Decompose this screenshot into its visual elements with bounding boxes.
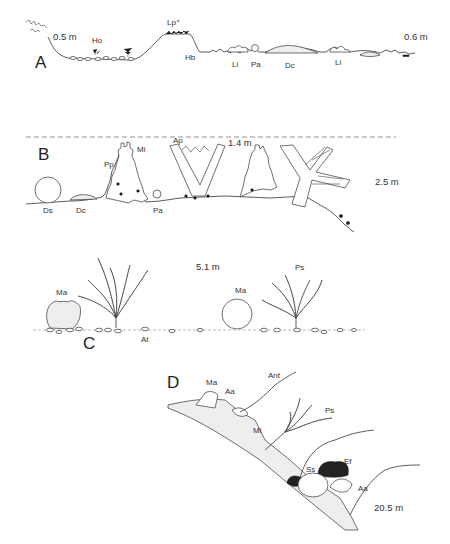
panel-a-plant-ho <box>93 49 100 55</box>
label-lp-plus: Lp⁺ <box>167 18 180 27</box>
label-ant: Ant <box>268 371 281 380</box>
panel-d-depth: 20.5 m <box>374 502 403 513</box>
label-mi: Mi <box>253 426 262 435</box>
panel-a-pa-colony <box>252 45 259 52</box>
panel-a-letter: A <box>35 53 47 72</box>
panel-a-depth-end: 0.6 m <box>404 31 428 42</box>
panel-b-dark-specks <box>117 183 350 225</box>
label-pa: Pa <box>251 60 261 69</box>
panel-a-shore-edge-lower <box>30 29 40 32</box>
label-ef: Ef <box>344 457 352 466</box>
panel-c-letter: C <box>83 334 95 353</box>
panel-c-ma-sponge-right <box>222 299 252 329</box>
panel-b-branching-coral <box>280 145 350 207</box>
panel-b-ap-branch-tips <box>182 146 209 152</box>
panel-a-lens <box>360 52 380 57</box>
panel-a-depth-start: 0.5 m <box>53 31 77 42</box>
panel-b-ap-staghorn <box>170 144 225 196</box>
panel-b-depth-end: 2.5 m <box>375 176 399 187</box>
panel-b-second-tower <box>240 145 277 197</box>
label-ap: Ap <box>173 136 183 145</box>
panel-b-dc-lens <box>70 195 97 200</box>
panel-b-letter: B <box>38 145 49 164</box>
panel-d-ss-boulder <box>298 473 328 497</box>
label-dc: Dc <box>76 206 86 215</box>
label-at: At <box>141 335 149 344</box>
panel-c-depth: 5.1 m <box>196 261 220 272</box>
label-dc: Dc <box>285 61 295 70</box>
label-ma-left: Ma <box>56 288 68 297</box>
label-ss: Ss <box>306 465 315 474</box>
panel-b-depth-mid: 1.4 m <box>228 137 252 148</box>
panel-a-li-lump-1 <box>228 46 248 52</box>
panel-a-plant-2 <box>124 48 132 57</box>
label-ps: Ps <box>325 406 334 415</box>
panel-c-ma-sponge-left <box>47 301 81 329</box>
panel-c: C 5.1 m Ma Ma Ps At <box>33 258 365 353</box>
label-li-2: Li <box>335 58 341 67</box>
label-mi: Mi <box>137 145 146 154</box>
panel-a-li-lump-2 <box>330 46 350 52</box>
panel-d: D 20.5 m Ma Aa Ant Ps Mi Ss Ef Aa <box>167 371 420 530</box>
panel-d-aa-lower <box>330 479 352 492</box>
label-pa: Pa <box>153 206 163 215</box>
label-aa-upper: Aa <box>225 387 235 396</box>
reef-profile-diagram: A 0.5 m 0.6 m Ho Lp⁺ Hb Li Pa Dc Li <box>0 0 450 544</box>
panel-b: B 1.4 m 2.5 m Mi Ap Pp Ds Dc Pa <box>26 136 399 232</box>
label-li-1: Li <box>232 60 238 69</box>
label-hb: Hb <box>185 53 196 62</box>
panel-d-letter: D <box>167 373 179 392</box>
panel-c-ps-colony <box>262 275 322 328</box>
panel-a-dark-patch <box>403 55 409 57</box>
label-ps: Ps <box>295 263 304 272</box>
panel-a: A 0.5 m 0.6 m Ho Lp⁺ Hb Li Pa Dc Li <box>26 18 428 72</box>
panel-c-sea-whip-colony <box>78 258 148 328</box>
panel-b-pa-colony <box>153 190 161 198</box>
label-ma: Ma <box>206 378 218 387</box>
label-ho: Ho <box>92 36 103 45</box>
label-ma-right: Ma <box>235 286 247 295</box>
panel-a-shore-edge <box>26 20 47 28</box>
panel-a-turf-lp <box>166 31 189 34</box>
panel-b-ds-boulder <box>35 177 61 203</box>
label-ds: Ds <box>43 206 53 215</box>
label-pp: Pp <box>104 160 114 169</box>
panel-d-ps-colony <box>265 398 332 450</box>
label-aa-lower: Aa <box>358 484 368 493</box>
